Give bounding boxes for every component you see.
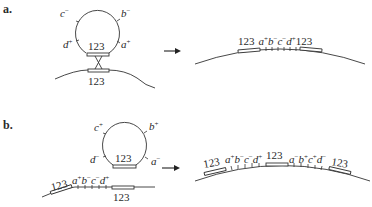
chromosome-line <box>55 70 155 88</box>
segment-label-a: a+ <box>121 38 131 50</box>
product-site-box-right <box>300 47 322 52</box>
product-site-box-middle <box>266 163 288 166</box>
segment-label-b: b− <box>121 7 131 19</box>
segment-tick <box>117 19 120 21</box>
panel-a-loop: 123 c− b− d+ a+ <box>60 7 131 56</box>
loop-site-label: 123 <box>88 40 105 52</box>
chromosome-site-label-right: 123 <box>113 191 130 203</box>
segment-label-a: a− <box>151 155 161 167</box>
chromosome-site-box <box>88 69 109 72</box>
panel-b: b. 123 c+ b+ d− a− 123 a+b <box>3 118 370 203</box>
product-site-box-left <box>238 48 260 53</box>
panel-b-label: b. <box>3 118 13 132</box>
segment-label-b: b+ <box>149 120 159 132</box>
recombination-figure: a. 123 c− b− d+ a+ 123 <box>0 0 372 207</box>
arrow-head-icon <box>174 165 180 171</box>
product-site-label-middle: 123 <box>266 149 283 161</box>
chromosome-segment-labels: a+b−c−d+ <box>72 174 109 186</box>
segment-label-d: d− <box>90 153 100 165</box>
panel-b-chromosome: 123 a+b−c−d+ 123 <box>42 174 155 203</box>
panel-b-loop: 123 c+ b+ d− a− <box>90 120 161 168</box>
loop-site-box <box>113 165 136 168</box>
segment-label-c: c+ <box>94 121 103 133</box>
product-label-row: 123 a+b−c−d+123 <box>238 31 313 48</box>
loop-site-box <box>87 53 109 56</box>
segment-label-c: c− <box>60 7 69 19</box>
product-chromosome-line <box>195 49 365 64</box>
chromosome-site-box-right <box>112 186 134 189</box>
product-segment-labels-1: a+b−c−d+ <box>225 153 262 165</box>
product-segment-labels-2: a−b+c+d− <box>289 153 326 165</box>
loop-site-label: 123 <box>115 152 132 164</box>
panel-a-label: a. <box>3 2 12 16</box>
segment-tick <box>145 157 148 159</box>
panel-b-product: 123 a+b−c−d+ 123 a−b+c+d− 123 <box>195 149 370 181</box>
product-site-label-left: 123 <box>202 155 221 170</box>
chromosome-site-label: 123 <box>88 75 105 87</box>
segment-tick <box>231 166 232 170</box>
segment-label-d: d+ <box>63 38 73 50</box>
panel-a: a. 123 c− b− d+ a+ 123 <box>3 2 365 88</box>
segment-tick <box>321 166 322 170</box>
panel-a-product: 123 a+b−c−d+123 <box>195 31 365 64</box>
segment-tick <box>144 131 147 133</box>
arrow-head-icon <box>175 48 181 54</box>
chromosome-site-label-left: 123 <box>50 177 69 193</box>
